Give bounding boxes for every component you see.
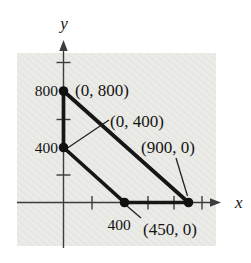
y-tick-label-400: 400 (35, 139, 59, 156)
x-axis-label: x (234, 193, 243, 212)
vertex-label-450-0: (450, 0) (143, 220, 197, 239)
x-tick-label-400: 400 (107, 216, 131, 233)
vertex-label-0-400: (0, 400) (110, 112, 164, 131)
y-axis-label: y (58, 14, 68, 33)
y-tick-label-800: 800 (35, 82, 59, 99)
feasible-region-figure: y x 800 400 400 (0, 800) (0, 400) (900, … (0, 0, 251, 263)
vertex-label-0-800: (0, 800) (75, 81, 129, 100)
point-900-0 (184, 198, 194, 208)
y-axis-arrow-icon (59, 40, 67, 51)
coordinate-plane-svg: y x 800 400 400 (0, 800) (0, 400) (900, … (0, 0, 251, 263)
point-0-400 (59, 143, 69, 153)
point-450-0 (120, 198, 130, 208)
vertex-label-900-0: (900, 0) (141, 138, 195, 157)
point-0-800 (59, 86, 69, 96)
